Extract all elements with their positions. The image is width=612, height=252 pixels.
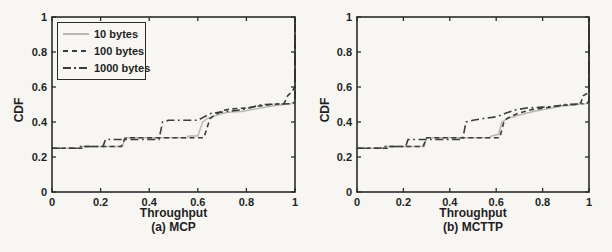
legend-entry-1000-bytes: 1000 bytes [63, 59, 145, 76]
axes-box [357, 17, 589, 192]
y-tick-label: 0.4 [337, 116, 353, 128]
y-tick-label: 0.2 [337, 151, 352, 163]
y-tick-label: 0.8 [337, 46, 352, 58]
y-tick-label: 0 [41, 186, 47, 198]
series-line-100-bytes [357, 17, 589, 148]
legend-label: 10 bytes [94, 28, 138, 40]
legend-label: 100 bytes [94, 45, 144, 57]
y-tick-label: 0.6 [337, 81, 352, 93]
legend-line-sample-solid [63, 33, 89, 35]
legend-line-sample-dashdot [63, 67, 89, 69]
series-line-10-bytes [357, 17, 589, 148]
chart-b-y-axis-label: CDF [318, 98, 332, 123]
chart-b-caption: (b) MCTTP [357, 220, 589, 234]
legend-entry-10-bytes: 10 bytes [63, 25, 145, 42]
legend-line-sample-dashed [63, 50, 89, 52]
legend-box: 10 bytes 100 bytes 1000 bytes [57, 22, 146, 80]
y-tick-label: 0 [346, 186, 352, 198]
y-tick-label: 1 [346, 11, 352, 23]
legend-label: 1000 bytes [94, 62, 150, 74]
legend-entry-100-bytes: 100 bytes [63, 42, 145, 59]
chart-panel-a: 00.20.40.60.8100.20.40.60.81 CDF Through… [0, 0, 306, 252]
chart-a-caption: (a) MCP [52, 220, 295, 234]
y-tick-label: 0.2 [32, 151, 47, 163]
chart-b-x-axis-label: Throughput [357, 206, 589, 220]
chart-panel-b: 00.20.40.60.8100.20.40.60.81 CDF Through… [306, 0, 612, 252]
y-tick-label: 0.4 [32, 116, 48, 128]
y-tick-label: 1 [41, 11, 47, 23]
chart-a-y-axis-label: CDF [12, 98, 26, 123]
chart-a-x-axis-label: Throughput [52, 206, 295, 220]
cdf-throughput-figure: 00.20.40.60.8100.20.40.60.81 CDF Through… [0, 0, 612, 252]
y-tick-label: 0.6 [32, 81, 47, 93]
series-line-1000-bytes [357, 17, 589, 148]
y-tick-label: 0.8 [32, 46, 47, 58]
